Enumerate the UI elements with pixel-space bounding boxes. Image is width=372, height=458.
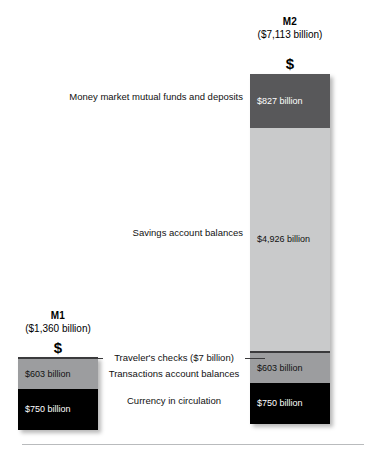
bar-segment-value-m2-money-market: $827 billion [250,97,303,106]
bar-segment-value-m1-transactions: $603 billion [18,370,71,379]
group-heading-m1: M1 ($1,360 billion) [0,310,118,334]
bar-m2: $827 billion $4,926 billion $603 billion… [250,74,330,424]
bar-segment-m2-currency: $750 billion [250,383,330,424]
bar-segment-m2-savings: $4,926 billion [250,128,330,351]
bar-segment-m1-currency: $750 billion [18,389,98,430]
bar-segment-value-m2-transactions: $603 billion [250,364,303,373]
category-label-savings: Savings account balances [58,228,243,238]
category-label-money-market: Money market mutual funds and deposits [38,92,243,102]
bar-segment-m2-money-market: $827 billion [250,74,330,128]
group-name-m2: M2 [230,16,350,28]
leader-line-travelers-checks-left [80,358,103,359]
footer-divider [22,444,364,445]
group-total-m1: ($1,360 billion) [0,323,118,335]
group-total-m2: ($7,113 billion) [230,29,350,41]
leader-line-travelers-checks-right [245,358,265,359]
group-heading-m2: M2 ($7,113 billion) [230,16,350,40]
bar-segment-value-m2-savings: $4,926 billion [250,235,310,244]
category-label-travelers-checks: Traveler's checks ($7 billion) [101,353,247,363]
bar-m1: $603 billion $750 billion [18,357,98,430]
bar-segment-m1-transactions: $603 billion [18,359,98,389]
bar-segment-value-m1-currency: $750 billion [18,405,71,414]
dollar-sign-icon-m1: $ [18,340,98,355]
category-label-currency: Currency in circulation [101,396,247,406]
category-label-transactions: Transactions account balances [101,369,247,379]
group-name-m1: M1 [0,310,118,322]
dollar-sign-icon-m2: $ [250,56,330,71]
figure-canvas: M2 ($7,113 billion) $ $827 billion $4,92… [0,0,372,458]
bar-segment-value-m2-currency: $750 billion [250,399,303,408]
